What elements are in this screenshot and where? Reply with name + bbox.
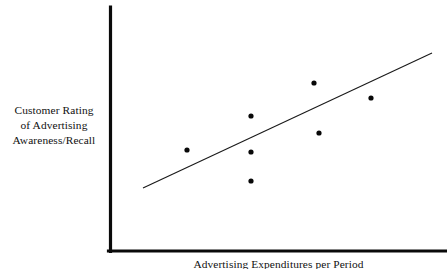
- data-point: [368, 95, 373, 100]
- data-point: [311, 80, 316, 85]
- data-point: [184, 147, 189, 152]
- y-axis-label-line-2: of Advertising: [4, 118, 104, 133]
- data-points-group: [184, 80, 373, 183]
- data-point: [248, 178, 253, 183]
- data-point: [248, 113, 253, 118]
- y-axis-label-line-3: Awareness/Recall: [4, 133, 104, 148]
- y-axis-label: Customer Rating of Advertising Awareness…: [4, 103, 104, 149]
- x-axis-label: Advertising Expenditures per Period: [110, 257, 447, 269]
- scatter-plot-figure: Customer Rating of Advertising Awareness…: [0, 0, 447, 269]
- data-point: [248, 149, 253, 154]
- data-point: [316, 130, 321, 135]
- y-axis-label-line-1: Customer Rating: [4, 103, 104, 118]
- trend-line: [143, 53, 432, 188]
